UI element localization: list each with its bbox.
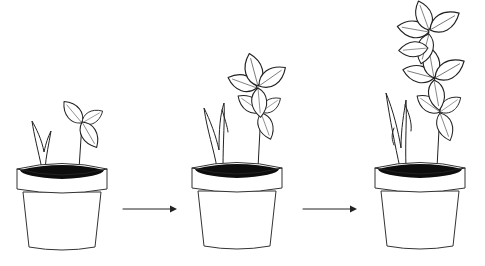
stage-3-plant	[386, 0, 468, 168]
stage-1-plant	[32, 97, 106, 169]
plant-growth-diagram: Plant growth sequence in three pots	[0, 0, 485, 266]
arrow-2	[303, 206, 357, 213]
stage-2-pot	[192, 163, 282, 250]
stage-2-plant	[204, 51, 290, 168]
stage-3-pot	[375, 163, 465, 250]
arrow-1	[123, 206, 177, 213]
stage-1-pot	[17, 164, 107, 251]
